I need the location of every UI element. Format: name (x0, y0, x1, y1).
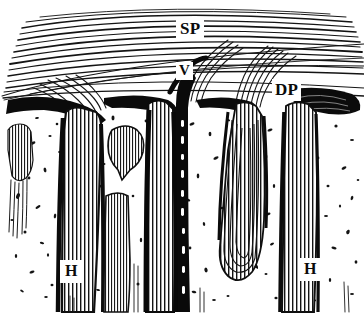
hair-follicle-2-dark (146, 100, 177, 312)
label-hair-left: H (60, 260, 83, 283)
label-deep-plexus: DP (272, 79, 301, 101)
label-superficial-plexus: SP (176, 18, 204, 40)
hair-follicle-3-with-bulb (219, 102, 267, 280)
secondary-follicle-stub (104, 193, 130, 312)
skin-cross-section-figure: SP V DP H H (0, 0, 364, 315)
label-vessel: V (176, 62, 193, 80)
label-hair-right: H (299, 258, 322, 281)
